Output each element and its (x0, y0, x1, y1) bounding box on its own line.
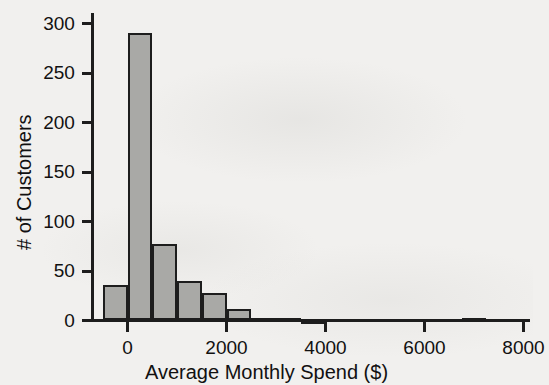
histogram-bar (301, 320, 326, 324)
y-axis-tick-label: 50 (0, 261, 75, 280)
y-axis-tick (82, 220, 93, 223)
histogram-bar (103, 285, 128, 321)
histogram-bar (462, 318, 487, 322)
x-axis-tick-label: 0 (78, 338, 178, 357)
histogram-bar (128, 33, 153, 320)
y-axis-tick (82, 121, 93, 124)
y-axis-tick-label: 300 (0, 14, 75, 33)
histogram-bar (177, 281, 202, 321)
histogram-bar (276, 318, 301, 322)
y-axis-tick-label: 100 (0, 212, 75, 231)
y-axis-tick-label: 150 (0, 162, 75, 181)
y-axis-tick-label: 200 (0, 113, 75, 132)
x-axis-tick (225, 321, 228, 332)
y-axis-tick (82, 22, 93, 25)
y-axis-tick-label: 250 (0, 63, 75, 82)
histogram-bar (251, 318, 276, 322)
y-axis-tick (82, 171, 93, 174)
histogram-bar (202, 293, 227, 321)
histogram-bar (152, 244, 177, 320)
y-axis-line (91, 13, 94, 322)
x-axis-tick (423, 321, 426, 332)
y-axis-title: # of Customers (14, 114, 34, 250)
x-axis-tick (522, 321, 525, 332)
x-axis-tick-label: 4000 (276, 338, 376, 357)
y-axis-tick-label: 0 (0, 311, 75, 330)
x-axis-title: Average Monthly Spend ($) (0, 362, 533, 382)
y-axis-tick (82, 319, 93, 322)
y-axis-tick (82, 270, 93, 273)
x-axis-tick (126, 321, 129, 332)
x-axis-tick-label: 8000 (474, 338, 549, 357)
x-axis-tick-label: 6000 (375, 338, 475, 357)
y-axis-tick (82, 72, 93, 75)
histogram-bar (227, 309, 252, 321)
x-axis-tick-label: 2000 (177, 338, 277, 357)
